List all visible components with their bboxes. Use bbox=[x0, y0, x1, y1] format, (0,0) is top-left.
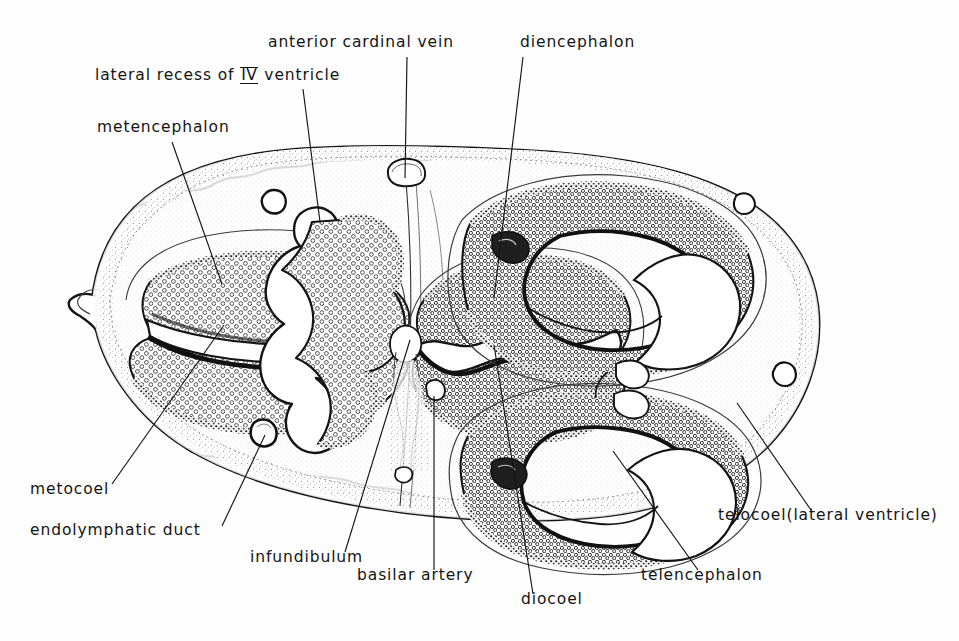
label-metencephalon: metencephalon bbox=[97, 120, 230, 136]
dorsal-left-duct-lumen bbox=[262, 190, 286, 213]
ventral-vessel-lumen bbox=[395, 467, 412, 483]
label-text-pre: lateral recess of bbox=[95, 66, 240, 84]
basilar-artery-lumen bbox=[426, 380, 445, 400]
label-diocoel: diocoel bbox=[521, 592, 583, 608]
label-telencephalon: telencephalon bbox=[641, 568, 763, 584]
dorsal-right-vessel-lumen bbox=[734, 193, 755, 214]
anterior-cardinal-vein-lumen bbox=[388, 159, 425, 186]
label-metocoel: metocoel bbox=[30, 482, 109, 498]
label-basilar-artery: basilar artery bbox=[357, 568, 473, 584]
endolymphatic-duct-lumen bbox=[251, 420, 277, 447]
figure-canvas: anterior cardinal veindiencephalonlatera… bbox=[0, 0, 959, 641]
label-infundibulum: infundibulum bbox=[250, 550, 363, 566]
brain-section-drawing bbox=[0, 0, 959, 641]
label-lateral-recess-of-iv-ventricle: lateral recess of IV ventricle bbox=[95, 67, 340, 84]
label-text-post: ventricle bbox=[258, 66, 340, 84]
label-anterior-cardinal-vein: anterior cardinal vein bbox=[268, 35, 454, 51]
label-telocoel-lateral-ventricle: telocoel(lateral ventricle) bbox=[718, 508, 938, 524]
label-diencephalon: diencephalon bbox=[520, 35, 635, 51]
label-endolymphatic-duct: endolymphatic duct bbox=[30, 523, 201, 539]
roman-numeral-four: IV bbox=[240, 67, 258, 84]
lateral-vessel-lumen bbox=[773, 363, 796, 386]
